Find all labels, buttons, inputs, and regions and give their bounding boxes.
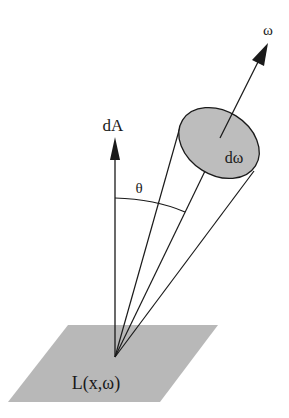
normal-arrowhead-icon: [110, 137, 120, 160]
solid-angle-label: dω: [225, 149, 244, 166]
theta-arc: [115, 198, 185, 212]
omega-arrowhead-icon: [252, 43, 268, 66]
theta-label: θ: [135, 180, 142, 196]
radiance-label: L(x,ω): [72, 373, 120, 394]
solid-angle-ellipse: [166, 93, 273, 193]
area-normal-label: dA: [103, 116, 125, 135]
omega-label: ω: [263, 22, 273, 38]
radiance-diagram: ω dω dA θ L(x,ω): [0, 0, 289, 418]
